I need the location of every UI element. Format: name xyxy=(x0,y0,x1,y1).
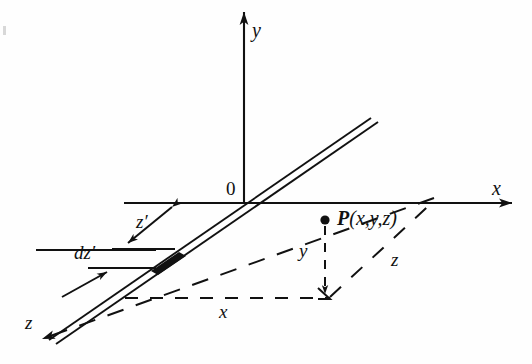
vector-diagram-figure: y x z 0 P(x,y,z) y x z z′ dz′ xyxy=(0,0,532,364)
point-P-marker xyxy=(320,215,329,224)
dz-prime-arrow-line xyxy=(62,272,107,297)
filled-dot-icon xyxy=(320,215,329,224)
x-component-corner-arrow xyxy=(318,288,330,299)
y-component-label: y xyxy=(299,241,307,260)
point-P-symbol: P xyxy=(337,207,349,229)
x-axis-label: x xyxy=(492,178,501,198)
y-axis-label: y xyxy=(252,20,261,40)
wire-edge-lower xyxy=(56,122,378,344)
z-axis-label: z xyxy=(25,313,32,332)
point-P-label: P(x,y,z) xyxy=(337,208,397,228)
x-component-label: x xyxy=(219,302,227,321)
wire-edge-upper xyxy=(49,118,371,340)
point-P-coordinates: (x,y,z) xyxy=(349,207,397,229)
z-prime-double-arrow xyxy=(128,207,172,243)
z-prime-dimension xyxy=(36,203,178,250)
dz-prime-thick-segment xyxy=(151,252,186,275)
dz-prime-element xyxy=(151,252,186,275)
z-component-label: z xyxy=(391,250,398,269)
origin-label: 0 xyxy=(226,179,236,198)
diagram-canvas xyxy=(0,0,532,364)
z-prime-label: z′ xyxy=(136,212,148,231)
dz-prime-direction-arrow xyxy=(62,272,107,297)
x-component-dashed xyxy=(125,288,330,299)
dz-prime-label: dz′ xyxy=(74,243,95,262)
wire-double-line xyxy=(49,118,378,344)
